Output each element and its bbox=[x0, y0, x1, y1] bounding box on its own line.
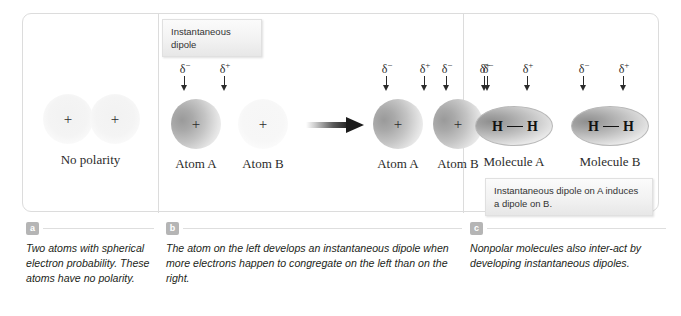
atom-b-label-left: Atom B bbox=[228, 156, 298, 172]
hydrogen-atom-1: H bbox=[588, 119, 599, 135]
caption-b-text: The atom on the left develops an instant… bbox=[166, 241, 462, 286]
no-polarity-label: No polarity bbox=[23, 152, 158, 168]
caption-b: b The atom on the left develops an insta… bbox=[166, 222, 462, 286]
delta-negative-arrow-left bbox=[168, 76, 202, 93]
panel-a: + + No polarity bbox=[23, 14, 158, 213]
caption-c: c Nonpolar molecules also inter-act by d… bbox=[470, 222, 666, 271]
delta-positive-label-left: δ+ bbox=[208, 60, 242, 77]
atom-a-label-left: Atom A bbox=[161, 156, 231, 172]
caption-a: a Two atoms with spherical electron prob… bbox=[26, 222, 154, 286]
caption-b-header: b bbox=[166, 222, 462, 238]
delta-negative-label-right-a: δ− bbox=[370, 60, 404, 77]
delta-positive-arrow-mol-a bbox=[511, 76, 545, 93]
reaction-arrow-icon bbox=[306, 114, 366, 136]
molecule-a: H H bbox=[475, 106, 553, 146]
molecule-b-label: Molecule B bbox=[561, 154, 659, 170]
panel-c: δ− δ+ δ− δ+ H H bbox=[463, 14, 659, 213]
illustration-frame: + + No polarity Instantaneous dipole δ− … bbox=[22, 13, 659, 212]
molecule-b: H H bbox=[571, 106, 649, 146]
delta-negative-label-left: δ− bbox=[168, 60, 202, 77]
delta-positive-arrow-mol-b bbox=[607, 76, 641, 93]
atom-charge-symbol: + bbox=[373, 99, 423, 149]
caption-a-text: Two atoms with spherical electron probab… bbox=[26, 241, 154, 286]
dispersion-forces-figure: + + No polarity Instantaneous dipole δ− … bbox=[0, 0, 681, 316]
hydrogen-atom-1: H bbox=[492, 119, 503, 135]
atom-b-right-a: + bbox=[373, 99, 423, 149]
caption-badge-a: a bbox=[26, 222, 39, 235]
delta-negative-arrow-mol-b bbox=[567, 76, 601, 93]
hydrogen-atom-2: H bbox=[527, 119, 538, 135]
atom-b-left-a: + bbox=[171, 99, 221, 149]
bond-line-icon bbox=[603, 126, 619, 127]
atom-charge-symbol: + bbox=[171, 99, 221, 149]
instantaneous-dipole-callout: Instantaneous dipole bbox=[162, 19, 262, 57]
delta-negative-label-right-b: δ− bbox=[430, 60, 464, 77]
bond-line-icon bbox=[507, 126, 523, 127]
molecule-b-formula: H H bbox=[572, 107, 650, 147]
delta-negative-label-mol-a: δ− bbox=[471, 60, 505, 77]
molecule-a-label: Molecule A bbox=[465, 154, 563, 170]
delta-negative-label-mol-b: δ− bbox=[567, 60, 601, 77]
atom-charge-symbol: + bbox=[238, 99, 288, 149]
molecule-a-formula: H H bbox=[476, 107, 554, 147]
atom-charge-symbol: + bbox=[43, 94, 93, 144]
atom-a-left: + bbox=[43, 94, 93, 144]
caption-c-text: Nonpolar molecules also inter-act by dev… bbox=[470, 241, 666, 271]
atom-a-right: + bbox=[90, 94, 140, 144]
caption-badge-c: c bbox=[470, 222, 483, 235]
panel-b: Instantaneous dipole δ− δ+ + + Atom A At… bbox=[158, 14, 463, 213]
delta-positive-label-mol-b: δ+ bbox=[607, 60, 641, 77]
caption-c-header: c bbox=[470, 222, 666, 238]
caption-rule bbox=[183, 228, 462, 229]
atom-charge-symbol: + bbox=[90, 94, 140, 144]
caption-rule bbox=[487, 228, 666, 229]
caption-rule bbox=[43, 228, 154, 229]
delta-negative-arrow-right-a bbox=[370, 76, 404, 93]
induced-dipole-callout: Instantaneous dipole on A induces a dipo… bbox=[485, 178, 653, 216]
hydrogen-atom-2: H bbox=[623, 119, 634, 135]
delta-positive-label-mol-a: δ+ bbox=[511, 60, 545, 77]
atom-b-left-b: + bbox=[238, 99, 288, 149]
caption-a-header: a bbox=[26, 222, 154, 238]
delta-negative-arrow-mol-a bbox=[471, 76, 505, 93]
delta-positive-arrow-left bbox=[208, 76, 242, 93]
delta-negative-arrow-right-b bbox=[430, 76, 464, 93]
caption-badge-b: b bbox=[166, 222, 179, 235]
